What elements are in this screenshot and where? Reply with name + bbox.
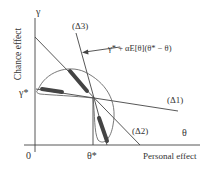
delta1-label: (Δ1) <box>167 95 183 105</box>
theta-star-label: θ* <box>87 150 97 161</box>
x-axis-label: Personal effect <box>143 151 197 161</box>
thick-segment-bottom <box>99 118 107 141</box>
delta3-label: (Δ3) <box>72 21 88 31</box>
y-axis-label: Chance effect <box>13 27 23 80</box>
thick-segment-top <box>70 71 87 91</box>
thick-segment-left <box>42 89 62 92</box>
y-axis-symbol: γ <box>35 6 41 17</box>
x-axis-symbol: θ <box>182 127 187 138</box>
annotation-formula: γ* + αE[θ](θ* − θ) <box>107 43 172 53</box>
origin-label: 0 <box>26 150 31 161</box>
gamma-star-label: γ* <box>18 87 28 98</box>
delta2-label: (Δ2) <box>132 126 148 136</box>
arrow-head-icon <box>82 50 89 55</box>
diagram-canvas: γ Chance effect θ Personal effect 0 θ* γ… <box>0 0 213 170</box>
